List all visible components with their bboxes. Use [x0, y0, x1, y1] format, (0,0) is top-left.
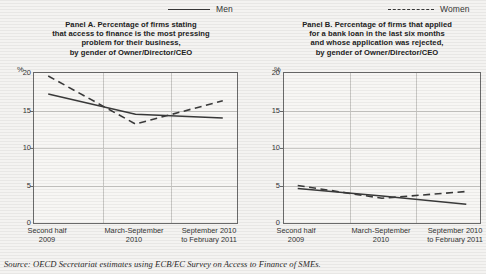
xlabel-3-line1: September 2010: [417, 226, 486, 235]
panel-b-title-line-1: Panel B. Percentage of firms that applie…: [274, 20, 480, 29]
panel-b-plot-area: [283, 72, 481, 224]
source-note: Source: OECD Secretariat estimates using…: [4, 259, 482, 269]
xlabel-1-line2: 2009: [12, 235, 82, 244]
legend-label-women: Women: [440, 4, 470, 14]
source-text: OECD Secretariat estimates using ECB/EC …: [33, 259, 321, 269]
legend-label-men: Men: [216, 4, 233, 14]
xlabel-1-line1: Second half: [261, 226, 331, 235]
panel-b-title-line-3: and whose application was rejected,: [274, 38, 480, 47]
panel-a-title-line-4: by gender of Owner/Director/CEO: [12, 48, 250, 57]
panel-b-title: Panel B. Percentage of firms that applie…: [268, 20, 486, 57]
chart-legend: Men Women: [0, 4, 486, 20]
legend-item-women: Women: [388, 4, 470, 14]
panel-a-x-axis: Second half 2009 March-September 2010 Se…: [33, 226, 236, 250]
xlabel-2-line2: 2010: [97, 235, 171, 244]
figure-container: Men Women Panel A. Percentage of firms s…: [0, 0, 486, 274]
panel-a-title-line-2: that access to finance is the most press…: [12, 29, 250, 38]
legend-item-men: Men: [168, 4, 233, 14]
panel-a-y-axis: 20 15 10 5 0: [5, 72, 31, 222]
xlabel-2-line2: 2010: [344, 235, 418, 244]
xlabel-1-line1: Second half: [12, 226, 82, 235]
panel-b-x-axis: Second half 2009 March-September 2010 Se…: [283, 226, 479, 250]
dashed-line-icon: [388, 5, 434, 14]
panel-a-ytick-20: 20: [5, 68, 31, 77]
panel-a-title: Panel A. Percentage of firms stating tha…: [6, 20, 256, 57]
xlabel-3-line2: to February 2011: [417, 235, 486, 244]
panel-b-ytick-20: 20: [254, 68, 280, 77]
panel-a-xlabel-1: Second half 2009: [12, 226, 82, 245]
panel-b-xlabel-3: September 2010 to February 2011: [417, 226, 486, 245]
panel-a: Panel A. Percentage of firms stating tha…: [0, 20, 256, 254]
solid-line-icon: [168, 5, 210, 14]
panel-b-xlabel-2: March-September 2010: [344, 226, 418, 245]
panel-a-ytick-5: 5: [5, 180, 31, 189]
panel-b-xlabel-1: Second half 2009: [261, 226, 331, 245]
source-label: Source:: [4, 259, 31, 269]
panel-a-title-line-3: problem for their business,: [12, 38, 250, 47]
panel-b-y-axis: 20 15 10 5 0: [254, 72, 280, 222]
panel-b-series-lines: [284, 73, 480, 223]
panel-b-title-line-4: by gender of Owner/Director/CEO: [274, 48, 480, 57]
panel-b-ytick-5: 5: [254, 180, 280, 189]
xlabel-2-line1: March-September: [97, 226, 171, 235]
panel-a-title-line-1: Panel A. Percentage of firms stating: [12, 20, 250, 29]
panel-b: Panel B. Percentage of firms that applie…: [252, 20, 486, 254]
panel-a-xlabel-2: March-September 2010: [97, 226, 171, 245]
panel-a-xlabel-3: September 2010 to February 2011: [171, 226, 247, 245]
panel-a-line-men: [48, 94, 223, 118]
panel-b-title-line-2: for a bank loan in the last six months: [274, 29, 480, 38]
xlabel-2-line1: March-September: [344, 226, 418, 235]
panel-b-ytick-15: 15: [254, 105, 280, 114]
panel-b-line-men: [298, 189, 467, 205]
xlabel-3-line1: September 2010: [171, 226, 247, 235]
panel-a-ytick-15: 15: [5, 105, 31, 114]
panel-a-ytick-10: 10: [5, 143, 31, 152]
panel-a-plot-area: [33, 72, 238, 224]
panel-a-series-lines: [34, 73, 237, 223]
xlabel-3-line2: to February 2011: [171, 235, 247, 244]
xlabel-1-line2: 2009: [261, 235, 331, 244]
panel-b-ytick-10: 10: [254, 143, 280, 152]
